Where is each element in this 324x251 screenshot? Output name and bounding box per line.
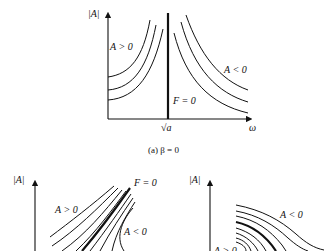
panel-b: |A| F = 0 A > 0 A < 0 bbox=[13, 174, 157, 251]
panel-b-curve-5 bbox=[90, 194, 131, 251]
panel-c-curve-7 bbox=[236, 242, 246, 251]
panel-a-region-positive-label: A > 0 bbox=[109, 41, 133, 52]
panel-a-region-negative-label: A < 0 bbox=[223, 64, 247, 75]
frequency-response-figure: |A| A > 0 A < 0 F = 0 √a ω (a) β = 0 |A|… bbox=[0, 0, 324, 251]
panel-a-tick-label: √a bbox=[161, 122, 172, 133]
panel-a-x-axis-label: ω bbox=[249, 122, 256, 133]
panel-a-curve-left-3 bbox=[108, 29, 163, 100]
panel-c-y-axis-label: |A| bbox=[189, 174, 201, 185]
panel-b-region-positive-label: A > 0 bbox=[54, 204, 78, 215]
panel-a-curve-right-2 bbox=[181, 22, 248, 102]
panel-b-region-negative-label: A < 0 bbox=[123, 226, 147, 237]
panel-c-region-positive-label: A > 0 bbox=[213, 245, 237, 251]
panel-a-curve-right-3 bbox=[186, 15, 248, 90]
panel-b-backbone-label: F = 0 bbox=[133, 177, 157, 188]
panel-b-backbone-curve bbox=[82, 188, 130, 251]
panel-a-y-axis-label: |A| bbox=[88, 8, 100, 19]
panel-b-y-axis-label: |A| bbox=[13, 174, 25, 185]
panel-a-curve-left-2 bbox=[108, 25, 156, 90]
panel-c: |A| A < 0 A > 0 bbox=[189, 174, 324, 251]
panel-c-curve-5 bbox=[236, 233, 258, 251]
panel-c-region-negative-label: A < 0 bbox=[279, 209, 303, 220]
panel-a: |A| A > 0 A < 0 F = 0 √a ω (a) β = 0 bbox=[88, 8, 256, 155]
panel-a-backbone-label: F = 0 bbox=[172, 95, 196, 106]
panel-a-caption: (a) β = 0 bbox=[148, 145, 179, 155]
